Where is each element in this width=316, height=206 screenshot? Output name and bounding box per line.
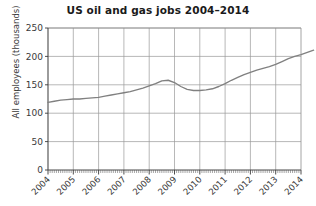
y-tick-label: 50 xyxy=(32,137,44,147)
x-tick-label: 2008 xyxy=(131,174,154,197)
y-tick-labels: 050100150200250 xyxy=(26,23,43,175)
y-tick-label: 200 xyxy=(26,52,43,62)
y-tick-label: 100 xyxy=(26,108,43,118)
x-tick-label: 2011 xyxy=(206,174,229,197)
x-tick-label: 2014 xyxy=(282,174,305,197)
y-tick-label: 150 xyxy=(26,80,43,90)
x-tick-label: 2007 xyxy=(105,174,128,197)
x-tick-labels: 2004200520062007200820092010201120122013… xyxy=(29,174,305,197)
x-tick-label: 2005 xyxy=(55,174,78,197)
x-tick-label: 2010 xyxy=(181,174,204,197)
vertical-gridlines xyxy=(73,28,275,170)
plot-area: 050100150200250 200420052006200720082009… xyxy=(0,0,316,206)
data-line-all-employees xyxy=(48,50,314,102)
x-tick-label: 2009 xyxy=(156,174,179,197)
x-tick-label: 2004 xyxy=(29,174,52,197)
x-tick-label: 2013 xyxy=(257,174,280,197)
data-series-group xyxy=(48,50,314,102)
y-tick-label: 250 xyxy=(26,23,43,33)
y-tick-label: 0 xyxy=(37,165,43,175)
chart-figure: US oil and gas jobs 2004–2014 All employ… xyxy=(0,0,316,206)
x-tick-label: 2006 xyxy=(80,174,103,197)
x-tick-label: 2012 xyxy=(232,174,255,197)
